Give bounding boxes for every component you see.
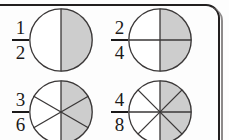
denominator: 4 [113,42,127,62]
fraction-model-one-half: 1 2 [12,6,93,74]
numerator: 4 [113,90,127,110]
denominator: 6 [14,114,28,134]
numerator: 1 [14,18,28,38]
numerator: 2 [113,18,127,38]
denominator: 2 [14,42,28,62]
pie-diagram-one-half [29,6,93,74]
fraction-bar [12,111,29,113]
pie-slice-unshaded [29,8,61,72]
fraction-bar [111,39,128,41]
pie-slice-shaded [160,80,192,140]
pie-diagram-two-quarters [128,6,192,74]
pie-diagram-three-sixths [29,78,93,140]
fraction-bar [111,111,128,113]
fraction-bar [12,39,29,41]
page-title: Equivalent fractions — halves shaded [0,0,1,1]
pie-slice-shaded [61,80,93,140]
pie-slice-unshaded [29,80,61,140]
fraction-model-four-eighths: 4 8 [111,78,192,140]
fraction-worksheet-page: 1 2 2 4 3 6 [0,0,229,140]
pie-slice-shaded [61,8,93,72]
fraction-label-three-sixths: 3 6 [12,90,29,134]
fraction-label-four-eighths: 4 8 [111,90,128,134]
denominator: 8 [113,114,127,134]
numerator: 3 [14,90,28,110]
pie-slice-unshaded [128,80,160,140]
fraction-model-three-sixths: 3 6 [12,78,93,140]
fraction-label-two-quarters: 2 4 [111,18,128,62]
pie-diagram-four-eighths [128,78,192,140]
fraction-label-one-half: 1 2 [12,18,29,62]
fraction-model-two-quarters: 2 4 [111,6,192,74]
